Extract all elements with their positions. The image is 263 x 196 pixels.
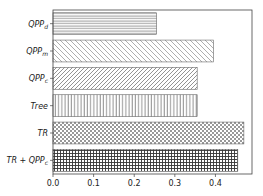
x-axis: 0.00.10.20.30.4	[47, 174, 222, 188]
y-tick-label: Tree	[31, 102, 48, 111]
x-tick-label: 0.4	[209, 179, 222, 188]
bar-hatch	[53, 40, 213, 62]
bar-hatch	[53, 122, 244, 144]
y-axis: QPPdQPPmQPPcTreeTRTR + QPPc	[7, 20, 54, 167]
x-tick-label: 0.1	[87, 179, 100, 188]
bar-hatch	[53, 95, 197, 117]
x-tick-label: 0.0	[47, 179, 60, 188]
bars-group	[53, 13, 244, 172]
y-tick-label: QPPd	[28, 20, 48, 30]
y-tick-label: TR	[38, 129, 48, 138]
y-tick-label: QPPc	[29, 74, 49, 84]
y-tick-label: TR + QPPc	[7, 156, 49, 166]
bar-hatch	[53, 67, 197, 89]
bar-hatch	[53, 149, 238, 171]
x-tick-label: 0.3	[168, 179, 181, 188]
bar-hatch	[53, 13, 157, 35]
bar-chart: QPPdQPPmQPPcTreeTRTR + QPPc 0.00.10.20.3…	[0, 0, 263, 196]
x-tick-label: 0.2	[128, 179, 141, 188]
y-tick-label: QPPm	[26, 47, 48, 57]
